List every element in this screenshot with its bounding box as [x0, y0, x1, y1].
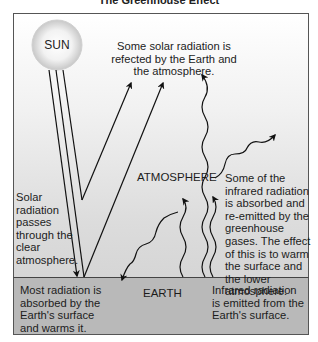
infrared-emission-text: Infrared radiation is emitted from the E…: [212, 284, 306, 322]
earth-label: EARTH: [143, 287, 182, 300]
atmosphere-label: ATMOSPHERE: [137, 171, 217, 184]
surface-absorption-text: Most radiation is absorbed by the Earth'…: [20, 284, 102, 334]
solar-passes-text: Solar radiation passes through the clear…: [16, 191, 78, 267]
greenhouse-absorption-text: Some of the infrared radiation is absorb…: [225, 172, 311, 298]
reflected-text: Some solar radiation is refected by the …: [108, 40, 240, 78]
sun-label: SUN: [32, 38, 82, 52]
